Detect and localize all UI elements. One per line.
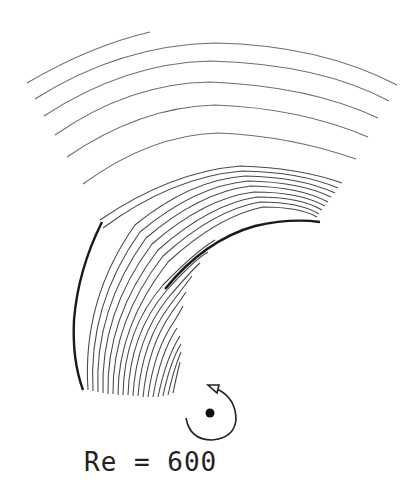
rotation-center-dot <box>206 409 215 418</box>
outer-streamlines <box>27 32 397 184</box>
inner-wall <box>165 221 320 289</box>
channel-streamlines <box>87 166 342 397</box>
streamline-diagram <box>0 0 418 493</box>
rotation-indicator <box>186 385 236 440</box>
reynolds-number-label: Re = 600 <box>84 447 217 477</box>
